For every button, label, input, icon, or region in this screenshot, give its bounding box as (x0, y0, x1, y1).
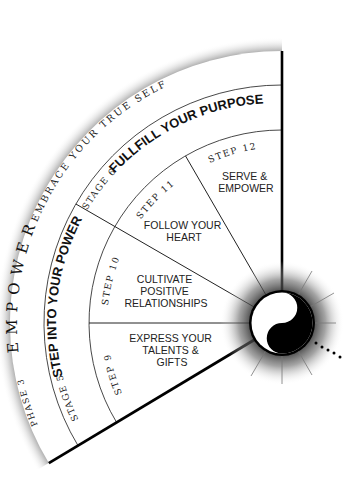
yin-yang-icon (249, 290, 315, 356)
fan-body (10, 51, 282, 463)
step-12-description: SERVE & EMPOWER (218, 170, 274, 194)
empower-phase-diagram: PHASE 3 EMPOWER EMBRACE YOUR TRUE SELF S… (0, 0, 361, 494)
